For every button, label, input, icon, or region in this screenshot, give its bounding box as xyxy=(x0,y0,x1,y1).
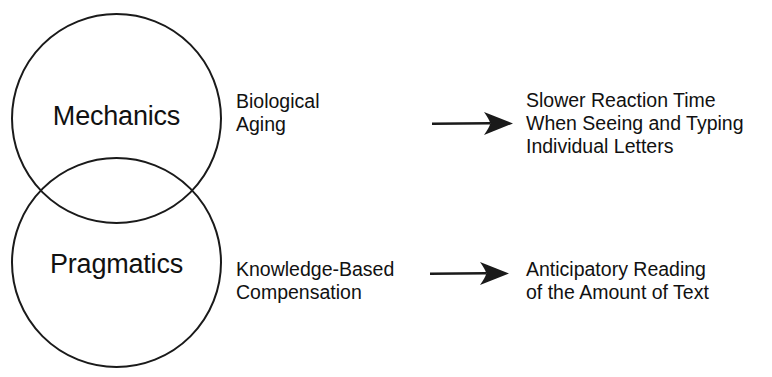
outcome-line: Individual Letters xyxy=(526,135,744,158)
diagram-canvas: Mechanics Pragmatics Biological Aging Kn… xyxy=(0,0,772,377)
outcome-label-mechanics: Slower Reaction Time When Seeing and Typ… xyxy=(526,89,744,158)
outcome-line: Slower Reaction Time xyxy=(526,89,744,112)
mediator-line: Compensation xyxy=(236,281,394,304)
venn-label-mechanics: Mechanics xyxy=(11,103,222,130)
mediator-label-knowledge-based-compensation: Knowledge-Based Compensation xyxy=(236,258,394,304)
venn-label-pragmatics: Pragmatics xyxy=(11,251,222,278)
mediator-label-biological-aging: Biological Aging xyxy=(236,90,319,136)
mediator-line: Aging xyxy=(236,113,319,136)
outcome-label-pragmatics: Anticipatory Reading of the Amount of Te… xyxy=(526,258,709,304)
mediator-line: Biological xyxy=(236,90,319,113)
outcome-line: Anticipatory Reading xyxy=(526,258,709,281)
right-arrow-icon xyxy=(430,104,516,146)
outcome-line: of the Amount of Text xyxy=(526,281,709,304)
outcome-line: When Seeing and Typing xyxy=(526,112,744,135)
mediator-line: Knowledge-Based xyxy=(236,258,394,281)
right-arrow-icon xyxy=(428,254,514,296)
